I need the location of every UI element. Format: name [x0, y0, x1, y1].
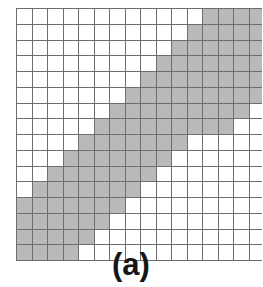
grid-cell	[48, 229, 64, 245]
grid-cell	[48, 103, 64, 119]
grid-cell	[234, 182, 250, 198]
grid-row	[17, 24, 263, 40]
grid-cell	[125, 198, 141, 214]
grid-cell	[32, 135, 48, 151]
grid-cell	[110, 166, 126, 182]
grid-cell	[172, 119, 188, 135]
grid-cell	[63, 56, 79, 72]
grid-cell	[141, 72, 157, 88]
grid-cell	[125, 72, 141, 88]
grid-row	[17, 119, 263, 135]
grid-cell	[110, 87, 126, 103]
grid-cell	[79, 40, 95, 56]
grid-cell	[249, 119, 262, 135]
grid-cell	[110, 150, 126, 166]
grid-cell	[110, 213, 126, 229]
grid-cell	[249, 135, 262, 151]
grid-cell	[141, 198, 157, 214]
grid-row	[17, 9, 263, 25]
grid-cell	[141, 229, 157, 245]
grid-cell	[63, 9, 79, 25]
grid-cell	[187, 72, 203, 88]
grid-cell	[172, 87, 188, 103]
grid-row	[17, 40, 263, 56]
grid-cell	[32, 166, 48, 182]
grid-cell	[125, 229, 141, 245]
grid-cell	[203, 103, 219, 119]
grid-cell	[156, 198, 172, 214]
grid-cell	[172, 182, 188, 198]
grid-row	[17, 72, 263, 88]
grid-cell	[48, 166, 64, 182]
grid-cell	[203, 56, 219, 72]
grid-cell	[156, 87, 172, 103]
grid-cell	[234, 213, 250, 229]
grid-cell	[17, 198, 33, 214]
grid-cell	[48, 24, 64, 40]
grid-row	[17, 103, 263, 119]
grid-cell	[234, 9, 250, 25]
grid-cell	[187, 103, 203, 119]
grid-cell	[110, 103, 126, 119]
grid-cell	[203, 150, 219, 166]
grid-row	[17, 213, 263, 229]
grid-cell	[172, 103, 188, 119]
grid-cell	[48, 213, 64, 229]
grid-row	[17, 198, 263, 214]
grid-cell	[218, 56, 234, 72]
grid-cell	[63, 135, 79, 151]
grid-cell	[110, 72, 126, 88]
grid-cell	[249, 56, 262, 72]
grid-cell	[17, 40, 33, 56]
grid-cell	[141, 40, 157, 56]
grid-cell	[187, 213, 203, 229]
grid-cell	[94, 213, 110, 229]
grid-cell	[218, 119, 234, 135]
grid-cell	[94, 24, 110, 40]
grid-cell	[110, 9, 126, 25]
grid-cell	[63, 166, 79, 182]
grid-cell	[156, 72, 172, 88]
grid-cell	[110, 24, 126, 40]
grid-cell	[79, 182, 95, 198]
grid-row	[17, 182, 263, 198]
grid-row	[17, 56, 263, 72]
grid-cell	[172, 198, 188, 214]
grid-cell	[187, 56, 203, 72]
grid-cell	[94, 103, 110, 119]
grid-cell	[17, 56, 33, 72]
grid-cell	[17, 72, 33, 88]
grid-cell	[249, 166, 262, 182]
grid-cell	[234, 166, 250, 182]
grid-cell	[203, 135, 219, 151]
grid-cell	[187, 182, 203, 198]
grid-cell	[125, 182, 141, 198]
grid-cell	[94, 9, 110, 25]
grid-cell	[187, 198, 203, 214]
grid-cell	[110, 135, 126, 151]
grid-cell	[79, 119, 95, 135]
grid-cell	[218, 103, 234, 119]
grid-cell	[48, 72, 64, 88]
grid-cell	[187, 87, 203, 103]
grid-cell	[172, 24, 188, 40]
grid-cell	[79, 103, 95, 119]
grid-cell	[249, 182, 262, 198]
grid-cell	[17, 166, 33, 182]
grid-cell	[187, 9, 203, 25]
grid-cell	[125, 166, 141, 182]
grid-cell	[79, 229, 95, 245]
grid-cell	[79, 87, 95, 103]
grid-cell	[63, 229, 79, 245]
grid-cell	[249, 40, 262, 56]
grid-cell	[141, 9, 157, 25]
grid-cell	[218, 24, 234, 40]
grid-cell	[141, 182, 157, 198]
grid-row	[17, 150, 263, 166]
grid-cell	[218, 135, 234, 151]
figure-caption: (a)	[0, 246, 262, 284]
grid-cell	[125, 40, 141, 56]
grid-row	[17, 229, 263, 245]
grid-cell	[156, 135, 172, 151]
grid-cell	[234, 40, 250, 56]
